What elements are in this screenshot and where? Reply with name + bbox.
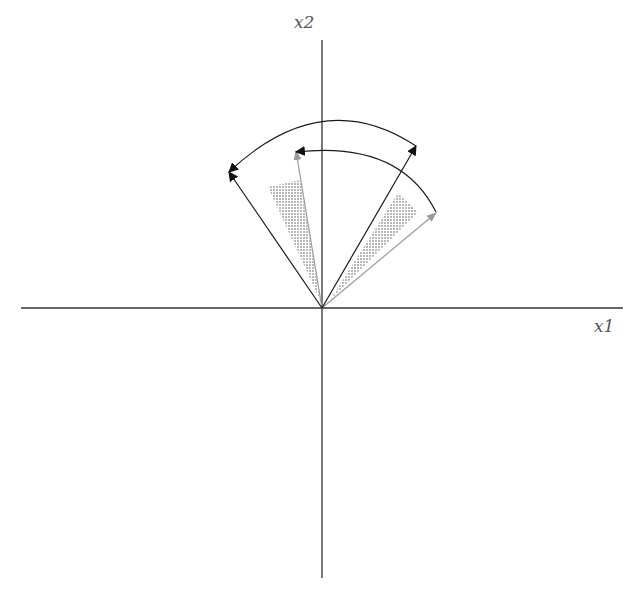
right-shaded-region <box>330 193 418 300</box>
x2-axis-label: x2 <box>294 12 314 32</box>
inner-rotation-arc <box>296 150 436 212</box>
x1-axis-label: x1 <box>594 316 614 336</box>
rotation-diagram <box>0 0 630 596</box>
